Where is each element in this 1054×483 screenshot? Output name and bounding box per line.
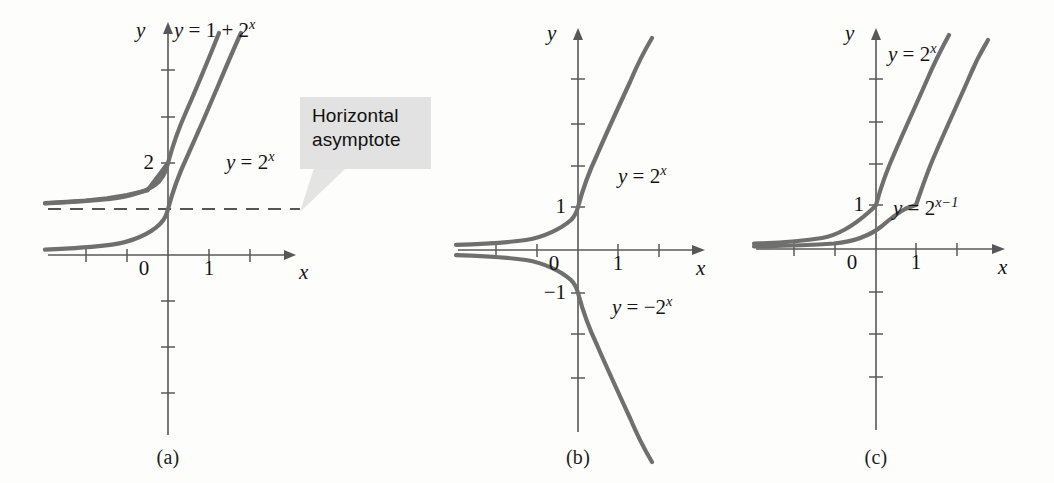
panel-a-y-axis-label: y [136,20,145,41]
panel-b-axes [458,28,705,432]
panel-b-x-axis-label: x [696,258,705,279]
panel-c-x-axis-label: x [998,257,1007,278]
panel-a-xtick-1: 1 [196,258,222,279]
curve-two-pow-x [45,33,241,250]
panel-b-y-axis-label: y [547,23,556,44]
panel-b-xtick-1: 1 [605,253,631,274]
panel-a-axes [48,22,296,435]
panel-b-plot [390,0,720,483]
panel-b-xtick-0: 0 [541,253,567,274]
panel-b-ytick-neg1: −1 [524,282,566,303]
panel-a-plot [0,0,350,483]
exponential-functions-figure: y x 0 1 2 y = 1 + 2x y = 2x Horizontal a… [0,0,1054,483]
panel-b: y x 0 1 1 −1 y = 2x y = −2x [390,0,720,483]
panel-c-plot [730,0,1054,483]
panel-b-ytick-1: 1 [536,196,566,217]
curve-one-plus-two-pow-x-main [45,33,219,203]
panel-a: y x 0 1 2 y = 1 + 2x y = 2x [0,0,350,483]
panel-b-caption: (b) [538,446,618,469]
panel-b-curve-label-neg-two-pow-x: y = −2x [612,297,672,318]
panel-c-y-axis-label: y [845,23,854,44]
panel-a-x-axis-label: x [299,262,308,283]
panel-a-ytick-2: 2 [124,152,154,173]
panel-a-curve-label-two-pow-x: y = 2x [226,152,275,173]
panel-c-ytick-1: 1 [834,194,864,215]
panel-c-xtick-1: 1 [903,252,929,273]
panel-c: y x 0 1 1 y = 2x y = 2x−1 [730,0,1054,483]
panel-c-curve-label-two-pow-x: y = 2x [888,44,937,65]
panel-b-curve-label-two-pow-x: y = 2x [618,166,667,187]
panel-c-caption: (c) [836,446,916,469]
panel-c-curve-label-two-pow-x-minus-1: y = 2x−1 [893,198,958,219]
panel-a-caption: (a) [128,446,208,469]
panel-a-xtick-0: 0 [131,258,157,279]
panel-a-curve-label-one-plus-two-pow-x: y = 1 + 2x [174,20,255,41]
panel-c-xtick-0: 0 [839,252,865,273]
